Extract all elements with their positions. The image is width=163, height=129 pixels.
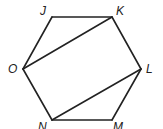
- vertex-label-n: N: [38, 120, 47, 129]
- vertex-label-k: K: [116, 4, 125, 18]
- diagonal-nl: [52, 69, 141, 120]
- vertex-label-j: J: [39, 4, 47, 18]
- side-no: [23, 69, 52, 120]
- hexagon-diagram: J K L M N O: [0, 0, 163, 129]
- side-kl: [112, 17, 141, 69]
- vertex-label-o: O: [8, 62, 17, 76]
- vertex-label-l: L: [146, 62, 153, 76]
- vertex-label-m: M: [113, 120, 123, 129]
- diagonal-ok: [23, 17, 112, 69]
